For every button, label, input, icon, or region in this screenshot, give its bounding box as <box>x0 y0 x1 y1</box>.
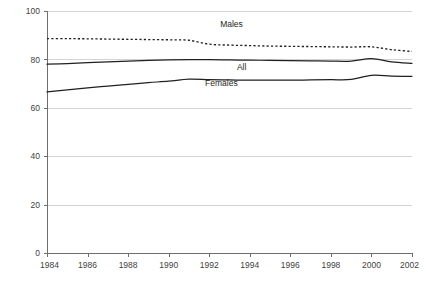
x-tick-label-1996: 1996 <box>281 260 300 270</box>
series-label-females: Females <box>205 78 238 88</box>
y-tick-label-0: 0 <box>35 248 40 258</box>
x-axis-tick-labels: 1984198619881990199219941996199820002002 <box>40 260 419 270</box>
series-line-males <box>47 39 412 52</box>
x-tick-label-1986: 1986 <box>78 260 97 270</box>
y-tick-label-20: 20 <box>31 200 41 210</box>
series-inline-labels: MalesAllFemales <box>205 19 246 88</box>
y-tick-label-40: 40 <box>31 151 41 161</box>
x-axis <box>47 11 413 257</box>
x-tick-label-2002: 2002 <box>400 260 419 270</box>
chart-container: 020406080100 198419861988199019921994199… <box>0 0 426 284</box>
y-axis-tick-labels: 020406080100 <box>26 6 47 258</box>
y-tick-label-100: 100 <box>26 6 40 16</box>
gridlines <box>47 12 412 254</box>
x-tick-label-1998: 1998 <box>321 260 340 270</box>
x-tick-label-1988: 1988 <box>119 260 138 270</box>
series-label-males: Males <box>220 19 243 29</box>
y-tick-label-80: 80 <box>31 55 41 65</box>
line-chart: 020406080100 198419861988199019921994199… <box>0 0 426 284</box>
x-tick-label-1992: 1992 <box>200 260 219 270</box>
x-tick-label-1984: 1984 <box>40 260 59 270</box>
x-tick-label-1994: 1994 <box>240 260 259 270</box>
x-tick-label-2000: 2000 <box>362 260 381 270</box>
y-tick-label-60: 60 <box>31 103 41 113</box>
x-tick-label-1990: 1990 <box>159 260 178 270</box>
series-label-all: All <box>237 62 247 72</box>
